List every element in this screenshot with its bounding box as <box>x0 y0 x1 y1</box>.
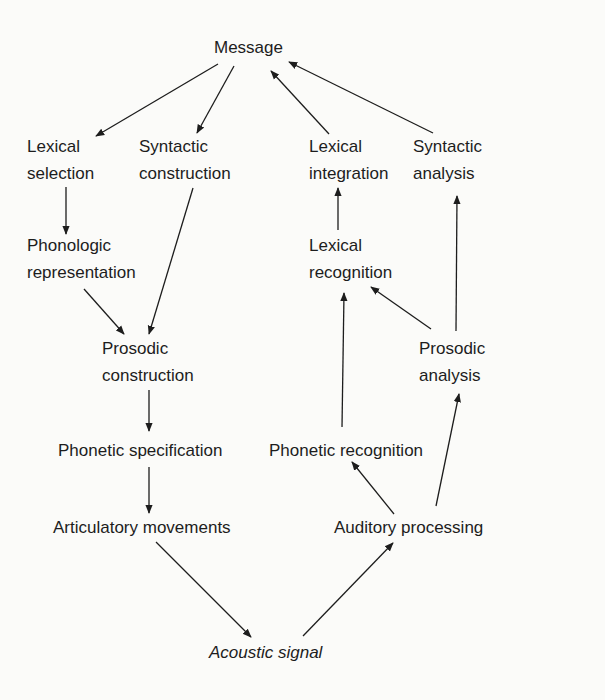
node-message-label: Message <box>214 34 283 61</box>
node-lexical-integration-line2: integration <box>309 160 388 187</box>
node-lexical-selection-line1: Lexical <box>27 133 94 160</box>
node-prosodic-construction: Prosodic construction <box>102 335 194 389</box>
node-acoustic-signal: Acoustic signal <box>209 639 322 666</box>
arrow-auditory-to-phonetic-recognition <box>352 462 394 514</box>
node-lexical-selection-line2: selection <box>27 160 94 187</box>
node-phonetic-recognition-label: Phonetic recognition <box>269 437 423 464</box>
node-syntactic-analysis-line2: analysis <box>413 160 482 187</box>
node-lexical-recognition-line1: Lexical <box>309 232 392 259</box>
node-phonetic-specification-label: Phonetic specification <box>58 437 222 464</box>
node-phonologic-representation-line2: representation <box>27 259 136 286</box>
node-syntactic-analysis-line1: Syntactic <box>413 133 482 160</box>
node-prosodic-construction-line1: Prosodic <box>102 335 194 362</box>
arrow-syntactic-construction-to-prosodic <box>149 188 193 334</box>
node-auditory-processing: Auditory processing <box>334 514 483 541</box>
node-syntactic-construction-line1: Syntactic <box>139 133 231 160</box>
node-articulatory-movements-label: Articulatory movements <box>53 514 231 541</box>
arrow-phonologic-to-prosodic-construction <box>84 289 124 334</box>
node-lexical-integration-line1: Lexical <box>309 133 388 160</box>
arrow-message-to-lexical-selection <box>96 64 218 136</box>
node-syntactic-construction-line2: construction <box>139 160 231 187</box>
arrows-layer <box>0 0 605 700</box>
speech-flow-diagram: Message Lexical selection Syntactic cons… <box>0 0 605 700</box>
node-lexical-integration: Lexical integration <box>309 133 388 187</box>
node-phonologic-representation-line1: Phonologic <box>27 232 136 259</box>
node-phonologic-representation: Phonologic representation <box>27 232 136 286</box>
arrow-message-to-syntactic-construction <box>197 66 234 133</box>
node-lexical-recognition: Lexical recognition <box>309 232 392 286</box>
node-message: Message <box>214 34 283 61</box>
arrow-prosodic-analysis-to-lexical-recognition <box>371 287 431 329</box>
node-syntactic-construction: Syntactic construction <box>139 133 231 187</box>
arrow-syntactic-analysis-to-message <box>289 62 433 133</box>
arrow-auditory-to-prosodic-analysis <box>436 394 459 506</box>
node-phonetic-specification: Phonetic specification <box>58 437 222 464</box>
node-auditory-processing-label: Auditory processing <box>334 514 483 541</box>
arrow-phonetic-recognition-to-lexical-recognition <box>342 293 344 427</box>
arrow-articulatory-to-acoustic <box>156 542 251 637</box>
arrow-lexical-integration-to-message <box>271 71 329 134</box>
node-prosodic-analysis-line1: Prosodic <box>419 335 485 362</box>
node-syntactic-analysis: Syntactic analysis <box>413 133 482 187</box>
node-articulatory-movements: Articulatory movements <box>53 514 231 541</box>
arrow-prosodic-analysis-to-syntactic-analysis <box>456 196 457 331</box>
node-lexical-selection: Lexical selection <box>27 133 94 187</box>
arrow-acoustic-to-auditory <box>303 543 393 636</box>
node-phonetic-recognition: Phonetic recognition <box>269 437 423 464</box>
node-prosodic-analysis: Prosodic analysis <box>419 335 485 389</box>
node-prosodic-analysis-line2: analysis <box>419 362 485 389</box>
node-lexical-recognition-line2: recognition <box>309 259 392 286</box>
node-prosodic-construction-line2: construction <box>102 362 194 389</box>
node-acoustic-signal-label: Acoustic signal <box>209 639 322 666</box>
